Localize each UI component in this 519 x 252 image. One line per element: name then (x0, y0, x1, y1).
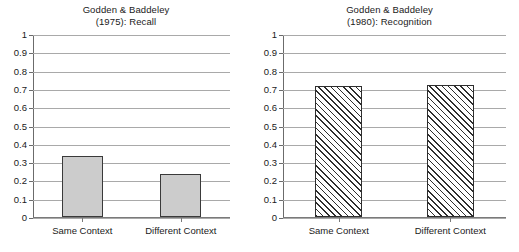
y-tick-label: 0.6 (14, 103, 27, 113)
chart-title-recall: Godden & Baddeley (1975): Recall (0, 4, 252, 28)
y-tick-label: 0.8 (14, 67, 27, 77)
y-tick-mark (279, 53, 283, 54)
x-tick-mark (339, 218, 340, 222)
y-tick-label: 0 (22, 213, 27, 223)
y-tick-mark (29, 181, 33, 182)
y-tick-mark (279, 181, 283, 182)
chart-title-recognition: Godden & Baddeley (1980): Recognition (260, 4, 519, 28)
y-tick-mark (29, 35, 33, 36)
y-tick-label: 1 (272, 30, 277, 40)
y-tick-label: 0.9 (264, 48, 277, 58)
gridline (283, 218, 506, 219)
gridline (33, 218, 230, 219)
chart-title-line2: (1980): Recognition (260, 16, 519, 28)
y-tick-mark (29, 163, 33, 164)
bar (315, 86, 362, 217)
plot-area-recall: 00.10.20.30.40.50.60.70.80.91 Same Conte… (33, 35, 230, 218)
y-tick-label: 0.4 (14, 140, 27, 150)
chart-title-line2: (1975): Recall (0, 16, 252, 28)
chart-panel-recall: Godden & Baddeley (1975): Recall 00.10.2… (0, 0, 252, 252)
y-tick-label: 0.2 (14, 176, 27, 186)
gridline (283, 53, 506, 54)
y-tick-mark (279, 218, 283, 219)
gridline (33, 72, 230, 73)
y-tick-mark (29, 53, 33, 54)
y-tick-mark (279, 108, 283, 109)
plot-area-recognition: 00.10.20.30.40.50.60.70.80.91 Same Conte… (283, 35, 506, 218)
y-tick-mark (29, 145, 33, 146)
gridline (283, 72, 506, 73)
y-tick-label: 0.6 (264, 103, 277, 113)
y-tick-mark (279, 200, 283, 201)
y-tick-label: 0.7 (264, 85, 277, 95)
y-tick-label: 0.4 (264, 140, 277, 150)
y-tick-mark (29, 200, 33, 201)
gridline (33, 127, 230, 128)
gridline (33, 145, 230, 146)
x-tick-mark (450, 218, 451, 222)
x-tick-label: Different Context (415, 225, 486, 236)
y-tick-label: 0.9 (14, 48, 27, 58)
y-tick-label: 0.3 (264, 158, 277, 168)
x-tick-label: Different Context (145, 225, 216, 236)
bar (427, 85, 474, 217)
y-tick-mark (279, 90, 283, 91)
gridline (33, 108, 230, 109)
bar (62, 156, 103, 217)
y-tick-label: 0.1 (14, 195, 27, 205)
y-tick-mark (279, 145, 283, 146)
chart-title-line1: Godden & Baddeley (83, 4, 170, 15)
y-tick-mark (279, 127, 283, 128)
gridline (283, 35, 506, 36)
bar (160, 174, 201, 217)
y-tick-mark (279, 35, 283, 36)
y-tick-label: 0.1 (264, 195, 277, 205)
x-tick-mark (181, 218, 182, 222)
y-tick-label: 0.2 (264, 176, 277, 186)
y-tick-label: 0.5 (264, 122, 277, 132)
y-tick-mark (29, 218, 33, 219)
chart-panel-recognition: Godden & Baddeley (1980): Recognition 00… (260, 0, 519, 252)
y-tick-label: 0.7 (14, 85, 27, 95)
gridline (33, 53, 230, 54)
x-tick-label: Same Context (309, 225, 369, 236)
gridline (33, 35, 230, 36)
y-tick-label: 1 (22, 30, 27, 40)
y-tick-label: 0.5 (14, 122, 27, 132)
bar-hatch-pattern (428, 86, 473, 216)
figure-canvas: Godden & Baddeley (1975): Recall 00.10.2… (0, 0, 519, 252)
y-tick-mark (29, 127, 33, 128)
y-tick-mark (29, 72, 33, 73)
y-tick-mark (279, 163, 283, 164)
y-tick-mark (29, 108, 33, 109)
chart-title-line1: Godden & Baddeley (346, 4, 433, 15)
y-tick-mark (279, 72, 283, 73)
y-tick-mark (29, 90, 33, 91)
x-tick-label: Same Context (52, 225, 112, 236)
gridline (33, 90, 230, 91)
y-tick-label: 0.3 (14, 158, 27, 168)
bar-hatch-pattern (316, 87, 361, 216)
x-tick-mark (82, 218, 83, 222)
y-tick-label: 0.8 (264, 67, 277, 77)
y-tick-label: 0 (272, 213, 277, 223)
